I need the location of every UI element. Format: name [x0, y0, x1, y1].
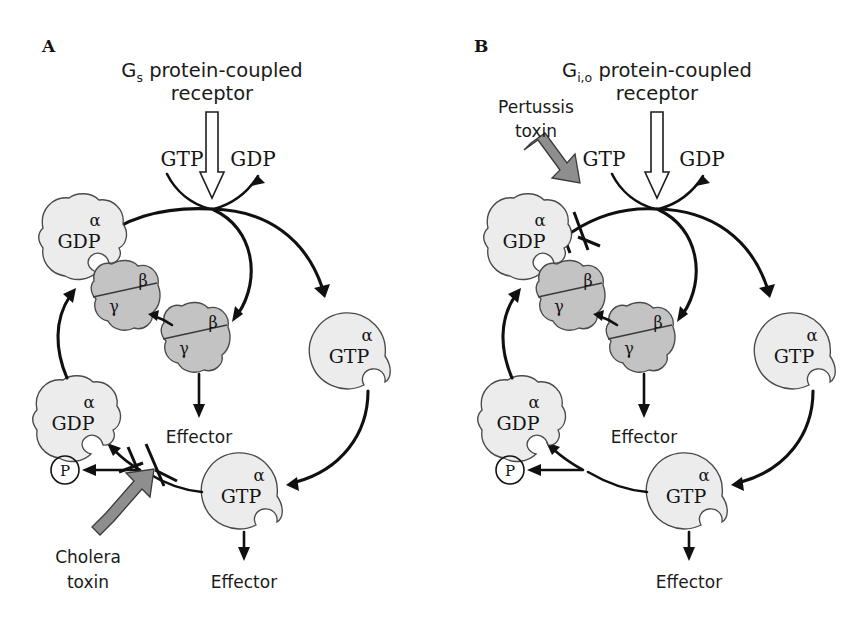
panel-a-gdp-label-left: GDP: [51, 412, 94, 434]
panel-b-alpha-label-top: α: [534, 211, 545, 230]
panel-b-gtp-label-bottom: GTP: [666, 485, 707, 507]
panel-a-beta-label-lower: β: [208, 313, 217, 332]
panel-b-gdp-label-left: GDP: [496, 412, 539, 434]
panel-b-title-line2: receptor: [616, 82, 699, 105]
panel-a-alpha-label-right: α: [361, 326, 372, 345]
panel-b-alpha-label-left: α: [528, 393, 539, 412]
panel-b-gtp-in-label: GTP: [583, 147, 626, 171]
g-protein-cycle-figure: A Gs protein-coupled receptor GTP GDP: [0, 0, 864, 620]
panel-b-effector-lower: Effector: [656, 572, 722, 592]
panel-a-toxin-line1: Cholera: [55, 547, 121, 567]
panel-a-toxin-line2: toxin: [67, 572, 109, 592]
panel-a-gamma-label-lower: γ: [179, 339, 189, 358]
panel-b-gdp-out-label: GDP: [679, 147, 724, 171]
panel-a-alpha-label-left: α: [83, 393, 94, 412]
panel-a-alpha-label-bottom: α: [253, 466, 264, 485]
panel-a-gtp-label-bottom: GTP: [221, 485, 262, 507]
panel-a-gdp-label-top: GDP: [57, 230, 100, 252]
panel-a-gtp-label-right: GTP: [329, 345, 370, 367]
panel-b-effector-upper: Effector: [611, 427, 677, 447]
panel-a-beta-label-upper: β: [138, 271, 147, 290]
panel-a-phosphate-label: P: [60, 462, 70, 480]
panel-b-beta-label-upper: β: [583, 271, 592, 290]
panel-a-effector-upper: Effector: [166, 427, 232, 447]
panel-a-letter: A: [41, 36, 56, 56]
panel-b-gamma-label-lower: γ: [624, 339, 634, 358]
panel-a-gtp-in-label: GTP: [161, 147, 204, 171]
panel-a-gdp-out-label: GDP: [230, 147, 275, 171]
panel-b-toxin-line2: toxin: [515, 121, 557, 141]
figure-canvas: A Gs protein-coupled receptor GTP GDP: [0, 0, 864, 620]
panel-b-phosphate-label: P: [505, 462, 515, 480]
panel-a-gamma-label-upper: γ: [109, 297, 119, 316]
panel-b-gtp-label-right: GTP: [774, 345, 815, 367]
panel-b-beta-label-lower: β: [653, 313, 662, 332]
panel-b-alpha-label-right: α: [806, 326, 817, 345]
panel-a-effector-lower: Effector: [211, 572, 277, 592]
panel-b-alpha-label-bottom: α: [698, 466, 709, 485]
panel-a-title-line2: receptor: [171, 82, 254, 105]
panel-a-alpha-label-top: α: [89, 211, 100, 230]
panel-b-toxin-line1: Pertussis: [498, 97, 574, 117]
panel-b-gamma-label-upper: γ: [554, 297, 564, 316]
panel-b-letter: B: [474, 36, 488, 56]
panel-b-gdp-label-top: GDP: [502, 230, 545, 252]
